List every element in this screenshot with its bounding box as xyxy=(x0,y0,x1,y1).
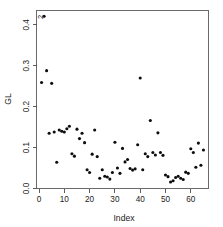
data-point xyxy=(141,168,144,171)
data-point xyxy=(73,155,76,158)
data-point xyxy=(166,175,169,178)
x-axis-title: Index xyxy=(113,213,135,223)
data-point xyxy=(70,152,73,155)
data-point xyxy=(189,147,192,150)
data-point xyxy=(194,166,197,169)
data-point xyxy=(146,155,149,158)
x-tick-label: 30 xyxy=(110,195,120,204)
data-point xyxy=(159,151,162,154)
x-tick-label: 20 xyxy=(85,195,95,204)
data-point xyxy=(202,148,205,151)
data-point xyxy=(123,160,126,163)
data-point xyxy=(108,178,111,181)
data-point xyxy=(88,171,91,174)
data-point xyxy=(136,143,139,146)
point-annotations: 2 xyxy=(36,15,45,19)
data-point xyxy=(83,141,86,144)
data-point xyxy=(192,151,195,154)
data-point xyxy=(118,172,121,175)
data-point xyxy=(106,175,109,178)
data-point xyxy=(40,81,43,84)
data-point xyxy=(78,137,81,140)
x-tick-label: 40 xyxy=(136,195,146,204)
data-point xyxy=(65,127,68,130)
data-point xyxy=(113,141,116,144)
data-point xyxy=(134,167,137,170)
data-point xyxy=(55,161,58,164)
data-point xyxy=(86,168,89,171)
data-point xyxy=(177,175,180,178)
data-point xyxy=(93,128,96,131)
y-tick-label: 0.2 xyxy=(22,101,31,113)
data-point xyxy=(121,147,124,150)
data-point xyxy=(111,171,114,174)
data-point xyxy=(182,178,185,181)
data-point xyxy=(116,166,119,169)
y-tick-label: 0.0 xyxy=(22,182,31,194)
data-point xyxy=(98,177,101,180)
data-point xyxy=(63,130,66,133)
scatter-plot-figure: 0102030405060 0.00.10.20.30.4 2 Index GL xyxy=(0,0,223,227)
x-tick-label: 0 xyxy=(37,195,42,204)
data-point xyxy=(75,128,78,131)
data-point xyxy=(96,155,99,158)
data-point xyxy=(139,76,142,79)
data-point xyxy=(149,119,152,122)
data-point xyxy=(48,132,51,135)
x-tick-label: 50 xyxy=(161,195,171,204)
data-point xyxy=(126,158,129,161)
y-axis-title: GL xyxy=(3,93,13,105)
plot-background xyxy=(0,0,223,227)
data-point xyxy=(50,82,53,85)
y-tick-label: 0.3 xyxy=(22,60,31,72)
data-point xyxy=(151,151,154,154)
data-point xyxy=(197,142,200,145)
data-point xyxy=(53,130,56,133)
outlier-label: 2 xyxy=(36,15,45,19)
data-point xyxy=(91,153,94,156)
data-point xyxy=(80,132,83,135)
y-tick-label: 0.1 xyxy=(22,141,31,153)
data-point xyxy=(172,179,175,182)
plot-canvas: 0102030405060 0.00.10.20.30.4 2 Index GL xyxy=(0,0,223,227)
x-tick-label: 10 xyxy=(60,195,70,204)
data-point xyxy=(101,168,104,171)
x-tick-label: 60 xyxy=(186,195,196,204)
y-tick-label: 0.4 xyxy=(22,19,31,31)
data-point xyxy=(144,152,147,155)
data-point xyxy=(161,154,164,157)
data-point xyxy=(199,164,202,167)
data-point xyxy=(187,172,190,175)
data-point xyxy=(156,131,159,134)
data-point xyxy=(45,69,48,72)
data-point xyxy=(154,153,157,156)
data-point xyxy=(68,125,71,128)
